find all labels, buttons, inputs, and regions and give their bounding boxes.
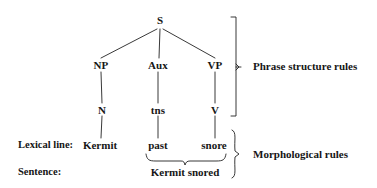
tree-node-tns: tns bbox=[151, 104, 165, 116]
sentence-brace-path bbox=[146, 154, 226, 165]
lexical-line-label: Lexical line: bbox=[18, 139, 73, 151]
phrase-structure-bracket bbox=[231, 17, 241, 116]
sentence-text: Kermit snored bbox=[151, 166, 220, 178]
morphological-bracket bbox=[232, 130, 239, 178]
branch-s-to-aux bbox=[159, 29, 160, 58]
sentence-grouping-brace bbox=[146, 154, 226, 165]
branch-s-to-vp bbox=[163, 29, 215, 58]
branches-root-to-level2 bbox=[101, 29, 215, 58]
branches-level2-to-level3 bbox=[101, 72, 215, 103]
lexical-item-past: past bbox=[148, 139, 168, 151]
phrase-bracket-spine bbox=[231, 17, 236, 116]
branch-n-to-kermit bbox=[101, 116, 102, 138]
branch-s-to-np bbox=[101, 29, 157, 58]
tree-node-vp: VP bbox=[208, 59, 223, 71]
morph-bracket-curve bbox=[232, 130, 239, 178]
lexical-item-kermit: Kermit bbox=[83, 139, 117, 151]
tree-node-np: NP bbox=[94, 59, 109, 71]
tree-node-n: N bbox=[98, 104, 106, 116]
branch-np-to-n bbox=[101, 72, 102, 103]
syntax-tree-diagram: S NP Aux VP N tns V Lexical line: Kermit… bbox=[0, 0, 377, 188]
tree-node-aux: Aux bbox=[148, 59, 168, 71]
sentence-line-label: Sentence: bbox=[18, 166, 61, 178]
tree-node-s: S bbox=[157, 14, 163, 26]
morphological-rules-label: Morphological rules bbox=[253, 148, 348, 160]
phrase-structure-rules-label: Phrase structure rules bbox=[253, 60, 357, 72]
branches-level3-to-lexical bbox=[101, 116, 215, 138]
tree-node-v: V bbox=[211, 104, 219, 116]
lexical-item-snore: snore bbox=[201, 139, 226, 151]
